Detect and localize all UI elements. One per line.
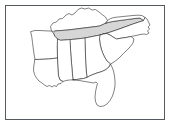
southeast-us-map [0, 0, 175, 135]
state-arkansas[interactable] [31, 31, 58, 60]
map-figure [0, 0, 175, 135]
states-layer [31, 8, 150, 107]
